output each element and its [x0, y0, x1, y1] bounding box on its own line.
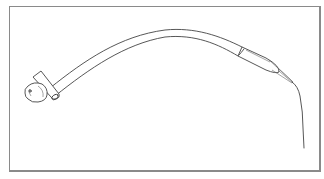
sleeve: [238, 47, 279, 73]
guide-wire: [292, 82, 304, 148]
hub: [25, 83, 47, 102]
catheter-drawing: [0, 0, 324, 179]
tube: [50, 29, 242, 96]
